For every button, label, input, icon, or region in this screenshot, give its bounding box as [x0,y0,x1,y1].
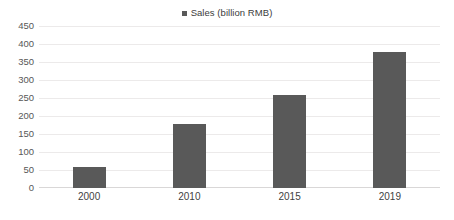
bar [373,52,406,188]
y-axis-tick-label: 300 [0,75,34,85]
y-axis-tick-label: 250 [0,93,34,103]
y-axis-tick-label: 450 [0,21,34,31]
y-axis-tick-label: 150 [0,129,34,139]
x-axis-tick-label: 2019 [379,191,401,202]
y-axis-tick-label: 50 [0,165,34,175]
y-axis-tick-label: 200 [0,111,34,121]
legend-entry-label: Sales (billion RMB) [191,7,273,18]
bar-chart: Sales (billion RMB) 05010015020025030035… [0,0,454,220]
y-axis-tick-label: 400 [0,39,34,49]
x-axis-tick-label: 2015 [279,191,301,202]
y-axis-tick-label: 350 [0,57,34,67]
y-axis: 050100150200250300350400450 [0,26,34,188]
x-axis: 2000201020152019 [39,191,440,211]
y-axis-tick-label: 0 [0,183,34,193]
x-axis-tick-label: 2010 [178,191,200,202]
chart-legend: Sales (billion RMB) [0,4,454,20]
bar [73,167,106,188]
plot-area [39,26,440,188]
gridline [39,44,440,45]
x-axis-tick-label: 2000 [78,191,100,202]
legend-square-icon [182,11,187,16]
bar [273,95,306,188]
gridline [39,26,440,27]
bar [173,124,206,188]
y-axis-tick-label: 100 [0,147,34,157]
